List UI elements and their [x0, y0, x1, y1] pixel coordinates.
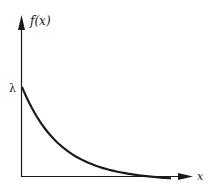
intercept-label: λ — [9, 82, 16, 95]
x-axis-arrow-icon — [178, 173, 193, 180]
y-axis-arrow-icon — [18, 15, 25, 30]
exponential-decay-diagram: f(x) x λ — [0, 0, 213, 191]
x-axis-label: x — [197, 170, 204, 183]
decay-curve — [22, 87, 171, 178]
y-axis-label: f(x) — [29, 14, 51, 28]
